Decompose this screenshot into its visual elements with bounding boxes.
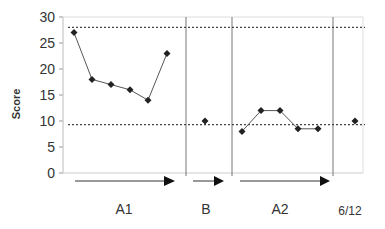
data-point-diamond-icon — [127, 86, 134, 93]
phase-label-a2: A2 — [271, 201, 288, 217]
phase-line-A1 — [74, 33, 167, 101]
y-tick-label: 15 — [39, 87, 55, 103]
y-tick-label: 30 — [39, 9, 55, 25]
data-point-diamond-icon — [202, 118, 209, 125]
y-tick-label: 0 — [47, 165, 55, 181]
single-case-line-chart: Score 051015202530 A1 B A2 6/12 — [0, 0, 385, 229]
phase-arrows — [75, 176, 330, 186]
reference-lines — [68, 27, 365, 124]
y-tick-label: 25 — [39, 35, 55, 51]
y-tick-label: 5 — [47, 139, 55, 155]
arrow-b-icon — [214, 176, 224, 186]
data-point-diamond-icon — [164, 50, 171, 57]
data-point-diamond-icon — [145, 97, 152, 104]
data-series — [71, 29, 359, 135]
arrow-a2-icon — [320, 176, 330, 186]
y-tick-label: 10 — [39, 113, 55, 129]
phase-label-followup: 6/12 — [338, 204, 362, 218]
data-point-diamond-icon — [315, 125, 322, 132]
data-point-diamond-icon — [352, 118, 359, 125]
arrow-a1-icon — [164, 176, 175, 186]
data-point-diamond-icon — [89, 76, 96, 83]
phase-label-b: B — [201, 201, 210, 217]
y-tick-label: 20 — [39, 61, 55, 77]
y-axis-label: Score — [10, 89, 22, 120]
data-point-diamond-icon — [108, 81, 115, 88]
y-axis: 051015202530 — [39, 9, 63, 181]
data-point-diamond-icon — [71, 29, 78, 36]
phase-label-a1: A1 — [115, 201, 132, 217]
